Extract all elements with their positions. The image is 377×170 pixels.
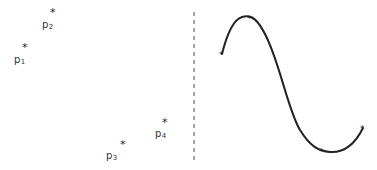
point-label-p1: p1: [14, 55, 26, 66]
label-subscript: 1: [21, 58, 26, 66]
label-subscript: 4: [162, 132, 167, 140]
point-label-p3: p3: [106, 151, 118, 162]
point-marker-p4: *: [162, 117, 168, 128]
interpolated-curve: [222, 16, 363, 152]
label-subscript: 3: [113, 154, 118, 162]
point-marker-p3: *: [120, 139, 126, 150]
label-base: p: [42, 19, 49, 30]
curve-knot-marker: *: [360, 124, 365, 134]
curve-knot-marker: *: [219, 50, 224, 60]
point-label-p4: p4: [155, 129, 167, 140]
label-subscript: 2: [49, 23, 54, 31]
point-marker-p1: *: [22, 42, 28, 53]
curve-knot-marker: *: [319, 147, 324, 157]
point-label-p2: p2: [42, 20, 54, 31]
label-base: p: [106, 150, 113, 161]
point-marker-p2: *: [50, 7, 56, 18]
curve-knot-marker: *: [247, 14, 252, 24]
diagram-canvas: * * * *: [0, 0, 377, 170]
label-base: p: [14, 54, 21, 65]
label-base: p: [155, 128, 162, 139]
